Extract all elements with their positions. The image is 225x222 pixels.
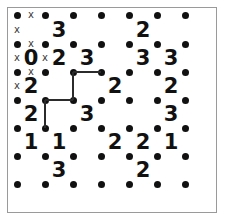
lattice-dot <box>70 181 77 188</box>
lattice-dot <box>14 69 21 76</box>
cell-clue-1-0[interactable]: 0 <box>24 48 39 69</box>
lattice-dot <box>42 181 49 188</box>
lattice-dot <box>154 181 161 188</box>
lattice-dot <box>126 153 133 160</box>
lattice-dot <box>182 181 189 188</box>
cell-clue-0-1[interactable]: 3 <box>52 19 67 40</box>
cell-clue-1-5[interactable]: 3 <box>164 48 179 69</box>
lattice-dot <box>182 97 189 104</box>
cell-clue-3-2[interactable]: 3 <box>80 104 95 125</box>
cell-clue-0-4[interactable]: 2 <box>136 19 151 40</box>
cell-clue-3-0[interactable]: 2 <box>24 104 39 125</box>
edge-segment-vertical-2-2[interactable] <box>72 72 74 100</box>
cell-clue-5-4[interactable]: 2 <box>136 160 151 181</box>
lattice-dot <box>14 153 21 160</box>
lattice-dot <box>154 125 161 132</box>
edge-segment-horizontal-3-1[interactable] <box>45 99 73 101</box>
lattice-dot <box>98 12 105 19</box>
cell-clue-4-1[interactable]: 1 <box>52 132 67 153</box>
cross-mark-vertical-0-0[interactable]: x <box>14 25 20 35</box>
cross-mark-horizontal-0-0[interactable]: x <box>28 10 34 20</box>
cell-clue-5-1[interactable]: 3 <box>52 160 67 181</box>
lattice-dot <box>98 181 105 188</box>
lattice-dot <box>154 97 161 104</box>
edge-segment-vertical-3-1[interactable] <box>44 100 46 128</box>
lattice-dot <box>14 41 21 48</box>
lattice-dot <box>154 69 161 76</box>
lattice-dot <box>42 12 49 19</box>
cell-clue-1-4[interactable]: 3 <box>136 48 151 69</box>
lattice-dot <box>182 125 189 132</box>
lattice-dot <box>182 153 189 160</box>
lattice-dot <box>126 69 133 76</box>
lattice-dot <box>14 181 21 188</box>
lattice-dot <box>70 12 77 19</box>
lattice-dot <box>182 41 189 48</box>
cell-clue-4-3[interactable]: 2 <box>108 132 123 153</box>
cell-clue-1-1[interactable]: 2 <box>52 48 67 69</box>
lattice-dot <box>70 41 77 48</box>
cell-clue-4-5[interactable]: 1 <box>164 132 179 153</box>
lattice-dot <box>98 153 105 160</box>
cross-mark-vertical-1-1[interactable]: x <box>42 53 48 63</box>
lattice-dot <box>14 125 21 132</box>
cell-clue-4-4[interactable]: 2 <box>136 132 151 153</box>
cross-mark-vertical-2-0[interactable]: x <box>14 81 20 91</box>
lattice-dot <box>14 12 21 19</box>
lattice-dot <box>126 12 133 19</box>
lattice-dot <box>126 41 133 48</box>
lattice-dot <box>42 153 49 160</box>
lattice-dot <box>126 97 133 104</box>
lattice-dot <box>154 41 161 48</box>
cell-clue-2-0[interactable]: 2 <box>24 76 39 97</box>
cell-clue-3-5[interactable]: 3 <box>164 104 179 125</box>
cell-clue-2-3[interactable]: 2 <box>108 76 123 97</box>
lattice-dot <box>70 153 77 160</box>
slitherlink-board[interactable]: xxxxxxx32023332222331122132 <box>0 0 225 222</box>
lattice-dot <box>154 153 161 160</box>
lattice-dot <box>126 181 133 188</box>
lattice-dot <box>182 69 189 76</box>
lattice-dot <box>70 125 77 132</box>
edge-segment-horizontal-2-2[interactable] <box>73 71 101 73</box>
lattice-dot <box>154 12 161 19</box>
lattice-dot <box>182 12 189 19</box>
lattice-dot <box>98 125 105 132</box>
lattice-dot <box>14 97 21 104</box>
lattice-dot <box>42 41 49 48</box>
lattice-dot <box>126 125 133 132</box>
lattice-dot <box>98 97 105 104</box>
lattice-dot <box>42 69 49 76</box>
cell-clue-4-0[interactable]: 1 <box>24 132 39 153</box>
cell-clue-1-2[interactable]: 3 <box>80 48 95 69</box>
cell-clue-2-5[interactable]: 2 <box>164 76 179 97</box>
cross-mark-vertical-1-0[interactable]: x <box>14 53 20 63</box>
lattice-dot <box>98 41 105 48</box>
